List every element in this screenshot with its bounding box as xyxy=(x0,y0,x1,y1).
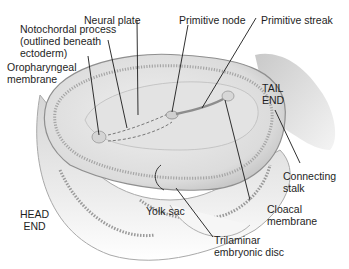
label-primitive-streak: Primitive streak xyxy=(261,14,333,26)
label-head-end: HEAD END xyxy=(20,208,49,232)
label-trilaminar-embryonic-disc: Trilaminar embryonic disc xyxy=(214,234,284,258)
embryonic-disc-shape xyxy=(44,54,285,190)
label-yolk-sac: Yolk sac xyxy=(146,205,185,217)
label-connecting-stalk: Connecting stalk xyxy=(283,170,336,194)
label-notochordal-process: Notochordal process (outlined beneath ec… xyxy=(20,23,116,59)
label-cloacal-membrane: Cloacal membrane xyxy=(267,203,317,227)
label-oropharyngeal-membrane: Oropharyngeal membrane xyxy=(7,61,76,85)
label-primitive-node: Primitive node xyxy=(179,14,246,26)
label-tail-end: TAIL END xyxy=(262,82,284,106)
embryonic-disc-diagram: Neural plate Primitive node Primitive st… xyxy=(0,0,349,269)
